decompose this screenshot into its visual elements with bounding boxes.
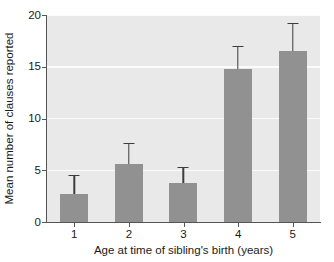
- x-tick-label: 4: [235, 228, 241, 240]
- bar-group: [156, 15, 211, 222]
- error-bar-line: [183, 168, 184, 182]
- x-tick-label: 2: [126, 228, 132, 240]
- plot-area: [47, 15, 320, 222]
- y-axis-tick-labels: 05101520: [21, 0, 41, 262]
- bar-group: [265, 15, 320, 222]
- y-tick-label: 20: [21, 9, 41, 22]
- bar: [224, 69, 252, 222]
- error-bar-cap: [69, 175, 80, 176]
- y-tick-label: 0: [21, 216, 41, 229]
- x-tick-label: 1: [71, 228, 77, 240]
- x-tick-mark: [184, 223, 185, 227]
- bar: [279, 51, 307, 222]
- error-bar-line: [128, 144, 129, 164]
- error-bar-line: [292, 24, 293, 51]
- error-bar-cap: [123, 143, 134, 144]
- bar-group: [211, 15, 266, 222]
- x-tick-label: 3: [180, 228, 186, 240]
- error-bar-cap: [178, 167, 189, 168]
- error-bar-line: [74, 176, 75, 194]
- x-tick-label: 5: [289, 228, 295, 240]
- bar-chart-figure: Mean number of clauses reported 05101520…: [0, 0, 334, 262]
- bar-group: [102, 15, 157, 222]
- x-axis-tick-labels: 12345: [47, 228, 320, 242]
- x-tick-mark: [238, 223, 239, 227]
- x-axis-spine: [46, 222, 321, 223]
- x-axis-label: Age at time of sibling's birth (years): [47, 244, 320, 256]
- error-bar-cap: [233, 46, 244, 47]
- error-bar-line: [237, 47, 238, 69]
- y-tick-label: 10: [21, 112, 41, 125]
- bar: [115, 164, 143, 222]
- y-axis-label: Mean number of clauses reported: [2, 15, 16, 222]
- x-tick-mark: [129, 223, 130, 227]
- y-tick-label: 5: [21, 164, 41, 177]
- bar-group: [47, 15, 102, 222]
- x-tick-mark: [74, 223, 75, 227]
- error-bar-cap: [287, 23, 298, 24]
- bar: [169, 183, 197, 222]
- x-tick-mark: [293, 223, 294, 227]
- y-tick-label: 15: [21, 60, 41, 73]
- bar: [60, 194, 88, 222]
